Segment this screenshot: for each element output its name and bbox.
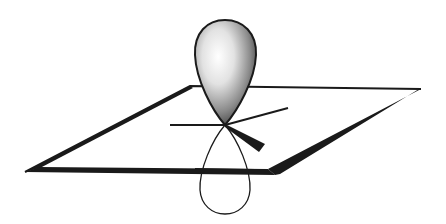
orbital-diagram: p orbital perpendicular to trigonal plan… [0, 0, 446, 224]
bond-front-right-wedge [225, 124, 265, 152]
p-orbital-upper-lobe [195, 20, 256, 125]
